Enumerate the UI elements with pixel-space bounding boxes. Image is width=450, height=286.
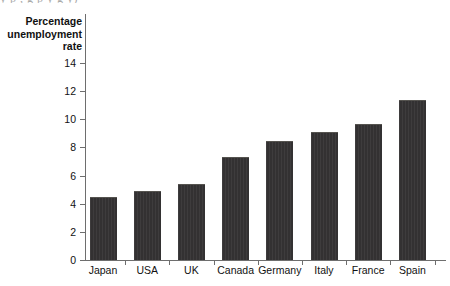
y-axis-title: Percentage unemployment rate [0,15,82,53]
x-axis-line [85,260,446,261]
y-axis-tick-label: 8 [44,141,76,153]
bar-italy [311,132,338,260]
bar-germany [266,141,293,260]
y-axis-tick [80,232,86,233]
y-axis-tick [80,147,86,148]
y-axis-tick-label: 10 [44,113,76,125]
y-axis-tick [80,91,86,92]
y-axis-tick [80,176,86,177]
bar-usa [134,191,161,260]
cropped-caption-above: y p , g p y g y) [0,0,450,3]
y-axis-tick-label: 4 [44,198,76,210]
bar-canada [222,157,249,260]
y-axis-tick [80,63,86,64]
y-axis-tick [80,204,86,205]
x-axis-label-spain: Spain [380,264,444,276]
bar-chart-figure: y p , g p y g y) Percentage unemployment… [0,0,450,286]
bar-japan [90,197,117,260]
bar-france [355,124,382,260]
y-axis-tick [80,119,86,120]
y-axis-tick-label: 6 [44,170,76,182]
y-axis-tick-label: 2 [44,226,76,238]
y-axis-title-line-2: unemployment [0,28,82,41]
y-axis-title-line-3: rate [0,40,82,53]
bar-spain [399,100,426,260]
y-axis-tick-label: 14 [44,57,76,69]
y-axis-line [85,14,86,261]
bar-uk [178,184,205,260]
y-axis-title-line-1: Percentage [0,15,82,28]
y-axis-tick-label: 12 [44,85,76,97]
y-axis-tick [80,260,86,261]
